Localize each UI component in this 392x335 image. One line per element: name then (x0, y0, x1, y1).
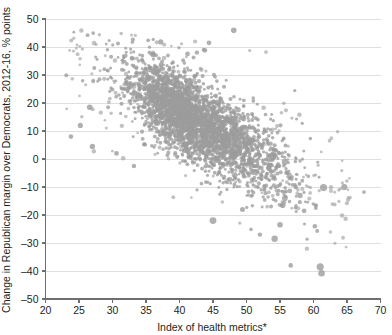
data-point (255, 180, 258, 183)
data-point (297, 182, 301, 186)
data-point (340, 213, 344, 217)
data-point (298, 159, 301, 162)
data-point (242, 98, 246, 102)
data-point (240, 115, 243, 118)
data-point (171, 128, 174, 131)
data-point (120, 102, 124, 106)
data-point (107, 100, 111, 104)
data-point (204, 112, 207, 115)
data-point (139, 71, 143, 75)
data-point (261, 169, 265, 173)
data-point (222, 102, 225, 105)
data-point (78, 45, 81, 48)
data-point (161, 113, 164, 116)
data-point (91, 79, 95, 83)
data-point (317, 263, 324, 270)
data-point (329, 189, 333, 193)
data-point (122, 94, 126, 98)
data-point (288, 263, 293, 268)
data-point (179, 133, 183, 137)
data-point (245, 171, 248, 174)
data-point (137, 107, 140, 110)
data-point (155, 91, 159, 95)
data-point (171, 74, 175, 78)
data-point (207, 140, 210, 143)
data-point (181, 124, 185, 128)
data-point (255, 158, 258, 161)
data-point (271, 236, 277, 242)
data-point (210, 92, 213, 95)
data-point (196, 90, 199, 93)
x-tick-label: 65 (341, 304, 353, 316)
data-point (114, 91, 118, 95)
data-point (86, 33, 90, 37)
data-point (266, 172, 269, 175)
data-point (117, 56, 120, 59)
data-point (184, 74, 187, 77)
data-point (218, 127, 221, 130)
data-point (207, 40, 212, 45)
data-point (229, 111, 232, 114)
data-point (251, 149, 254, 152)
data-point (183, 118, 187, 122)
x-axis-title: Index of health metrics* (157, 321, 267, 333)
data-point (265, 158, 268, 161)
data-point (173, 153, 177, 157)
data-point (223, 177, 226, 180)
data-point (263, 198, 267, 202)
data-point (217, 171, 220, 174)
data-point (76, 52, 80, 56)
data-point (204, 69, 207, 72)
data-point (329, 185, 333, 189)
data-point (106, 105, 110, 109)
data-point (263, 184, 266, 187)
data-point (201, 74, 205, 78)
data-point (232, 95, 236, 99)
data-point (173, 145, 177, 149)
data-point (164, 121, 168, 125)
data-point (210, 157, 213, 160)
data-point (148, 84, 152, 88)
data-point (194, 117, 197, 120)
data-point (250, 118, 254, 122)
x-tick-label: 40 (174, 304, 186, 316)
data-point (262, 138, 265, 141)
data-point (131, 37, 135, 41)
data-point (65, 108, 68, 111)
data-point (257, 133, 260, 136)
data-point (217, 186, 220, 189)
data-point (98, 33, 101, 36)
data-point (191, 131, 195, 135)
data-point (282, 164, 286, 168)
data-point (250, 126, 254, 130)
data-point (142, 84, 145, 87)
data-point (343, 217, 348, 222)
data-point (102, 77, 106, 81)
data-point (257, 124, 260, 127)
data-point (329, 230, 332, 233)
data-point (253, 169, 257, 173)
data-point (245, 206, 248, 209)
data-point (109, 55, 113, 59)
data-point (348, 177, 351, 180)
data-point (284, 167, 287, 170)
data-point (222, 130, 226, 134)
data-point (280, 202, 286, 208)
data-point (155, 117, 159, 121)
data-point (261, 191, 264, 194)
data-point (213, 100, 217, 104)
data-point (246, 181, 249, 184)
data-point (152, 38, 155, 41)
data-point (132, 56, 136, 60)
data-point (203, 88, 206, 91)
data-point (272, 174, 276, 178)
y-axis-ticks: 50403020100–10–20–30–40–50 (21, 13, 46, 305)
data-point (249, 228, 253, 232)
data-point (167, 68, 170, 71)
data-point (219, 152, 223, 156)
data-point (207, 150, 210, 153)
data-point (195, 86, 199, 90)
data-point (287, 154, 291, 158)
data-point (200, 131, 203, 134)
data-point (189, 140, 193, 144)
